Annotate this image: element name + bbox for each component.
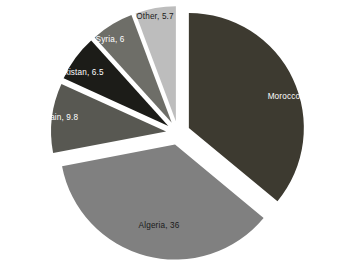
pie-slice-label-spain: Spain, 9.8 [40,113,79,122]
pie-slice-label-pakistan: Pakistan, 6.5 [54,68,104,77]
pie-chart-svg: Morocco, 36Algeria, 36Spain, 9.8Pakistan… [0,0,363,265]
pie-slice-label-algeria: Algeria, 36 [139,221,180,230]
pie-chart-figure: Morocco, 36Algeria, 36Spain, 9.8Pakistan… [0,0,363,265]
pie-slice-label-other: Other, 5.7 [136,12,174,21]
pie-slice-label-syria: Syria, 6 [96,35,125,44]
pie-slice-label-morocco: Morocco, 36 [268,92,315,101]
